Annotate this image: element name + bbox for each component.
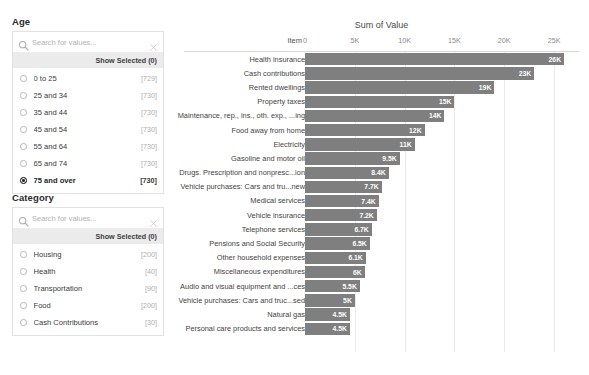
bar-row[interactable]: Gasoline and motor oil9.5K	[184, 151, 579, 165]
bar-row[interactable]: Vehicle purchases: Cars and tru...new7.7…	[184, 180, 579, 194]
bar-track: 12K	[305, 124, 579, 136]
bar[interactable]: 6.7K	[305, 223, 372, 235]
bar-value-label: 26K	[549, 56, 561, 63]
bar-track: 5.5K	[305, 280, 579, 292]
bar-row[interactable]: Maintenance, rep., ins., oth. exp., ...i…	[184, 109, 579, 123]
bar[interactable]: 14K	[305, 110, 444, 122]
x-axis-tick: 0	[303, 36, 307, 45]
bar-value-label: 5K	[343, 297, 352, 304]
bar-row[interactable]: Rented dwellings19K	[184, 80, 579, 94]
bar-list: Health insurance26KCash contributions23K…	[184, 52, 579, 336]
bar[interactable]: 7.4K	[305, 195, 379, 207]
search-row-age[interactable]	[13, 32, 163, 53]
bar-category-label: Natural gas	[125, 310, 305, 319]
bar-value-label: 19K	[479, 84, 491, 91]
bar-category-label: Maintenance, rep., ins., oth. exp., ...i…	[125, 111, 305, 120]
bar[interactable]: 11K	[305, 138, 415, 150]
bar-track: 9.5K	[305, 152, 579, 164]
bar-category-label: Vehicle purchases: Cars and truc...sed	[125, 296, 305, 305]
bar-row[interactable]: Food away from home12K	[184, 123, 579, 137]
bar-track: 6.5K	[305, 237, 579, 249]
y-axis-label: Item	[287, 36, 302, 45]
bar-value-label: 14K	[429, 112, 441, 119]
radio-icon[interactable]	[20, 251, 27, 258]
bar-track: 15K	[305, 96, 579, 108]
radio-icon[interactable]	[20, 75, 27, 82]
bar-category-label: Personal care products and services	[125, 324, 305, 333]
bar-track: 6K	[305, 266, 579, 278]
bar-row[interactable]: Health insurance26K	[184, 52, 579, 66]
bar-category-label: Other household expenses	[125, 253, 305, 262]
x-axis-tick: 20K	[498, 36, 511, 45]
bar-track: 26K	[305, 53, 579, 65]
bar-row[interactable]: Miscellaneous expenditures6K	[184, 265, 579, 279]
bar-row[interactable]: Personal care products and services4.5K	[184, 322, 579, 336]
bar[interactable]: 19K	[305, 81, 494, 93]
bar-row[interactable]: Cash contributions23K	[184, 66, 579, 80]
bar[interactable]: 7.7K	[305, 181, 382, 193]
bar-value-label: 7.4K	[361, 198, 375, 205]
chart-panel: Sum of Value Item 05K10K15K20K25K Health…	[184, 0, 589, 375]
radio-selected-icon[interactable]	[20, 177, 27, 184]
bar[interactable]: 23K	[305, 67, 534, 79]
x-axis-tick: 15K	[448, 36, 461, 45]
bar-row[interactable]: Audio and visual equipment and ...ces5.5…	[184, 279, 579, 293]
bar-track: 7.2K	[305, 209, 579, 221]
close-icon[interactable]	[149, 38, 158, 47]
radio-icon[interactable]	[20, 92, 27, 99]
bar-value-label: 6.7K	[354, 226, 368, 233]
bar-row[interactable]: Vehicle insurance7.2K	[184, 208, 579, 222]
search-input-age[interactable]	[29, 38, 149, 47]
bar-row[interactable]: Other household expenses6.1K	[184, 251, 579, 265]
bar-row[interactable]: Property taxes15K	[184, 95, 579, 109]
bar-track: 8.4K	[305, 167, 579, 179]
radio-icon[interactable]	[20, 109, 27, 116]
bar[interactable]: 6.1K	[305, 252, 366, 264]
bar-value-label: 7.7K	[364, 183, 378, 190]
radio-icon[interactable]	[20, 285, 27, 292]
bar-category-label: Telephone services	[125, 225, 305, 234]
bar[interactable]: 4.5K	[305, 308, 350, 320]
bar[interactable]: 5.5K	[305, 280, 360, 292]
bar-category-label: Medical services	[125, 196, 305, 205]
chart-title: Sum of Value	[184, 20, 579, 30]
bar-category-label: Cash contributions	[125, 69, 305, 78]
radio-icon[interactable]	[20, 160, 27, 167]
bar[interactable]: 8.4K	[305, 167, 389, 179]
radio-icon[interactable]	[20, 143, 27, 150]
bar-row[interactable]: Drugs. Prescription and nonpresc...ion8.…	[184, 166, 579, 180]
bar-row[interactable]: Pensions and Social Security6.5K	[184, 236, 579, 250]
x-axis-tick: 5K	[350, 36, 359, 45]
bar[interactable]: 7.2K	[305, 209, 377, 221]
x-axis-tick: 10K	[398, 36, 411, 45]
bar-row[interactable]: Medical services7.4K	[184, 194, 579, 208]
bar-value-label: 23K	[519, 70, 531, 77]
bar[interactable]: 15K	[305, 96, 454, 108]
bar-category-label: Vehicle insurance	[125, 211, 305, 220]
bar[interactable]: 6.5K	[305, 237, 370, 249]
bar-category-label: Rented dwellings	[125, 83, 305, 92]
bar[interactable]: 4.5K	[305, 323, 350, 335]
bar-category-label: Gasoline and motor oil	[125, 154, 305, 163]
radio-icon[interactable]	[20, 302, 27, 309]
bar-category-label: Electricity	[125, 140, 305, 149]
bar-track: 5K	[305, 294, 579, 306]
radio-icon[interactable]	[20, 126, 27, 133]
bar[interactable]: 5K	[305, 294, 355, 306]
bar[interactable]: 26K	[305, 53, 564, 65]
bar-row[interactable]: Electricity11K	[184, 137, 579, 151]
bar-row[interactable]: Vehicle purchases: Cars and truc...sed5K	[184, 293, 579, 307]
bar-category-label: Audio and visual equipment and ...ces	[125, 282, 305, 291]
bar-row[interactable]: Telephone services6.7K	[184, 222, 579, 236]
radio-icon[interactable]	[20, 268, 27, 275]
bar-row[interactable]: Natural gas4.5K	[184, 307, 579, 321]
bar-track: 6.7K	[305, 223, 579, 235]
bar-category-label: Health insurance	[125, 55, 305, 64]
radio-icon[interactable]	[20, 319, 27, 326]
bar-value-label: 12K	[409, 127, 421, 134]
bar-category-label: Vehicle purchases: Cars and tru...new	[125, 182, 305, 191]
bar[interactable]: 6K	[305, 266, 365, 278]
bar[interactable]: 9.5K	[305, 152, 400, 164]
bar-value-label: 6.5K	[352, 240, 366, 247]
bar[interactable]: 12K	[305, 124, 425, 136]
